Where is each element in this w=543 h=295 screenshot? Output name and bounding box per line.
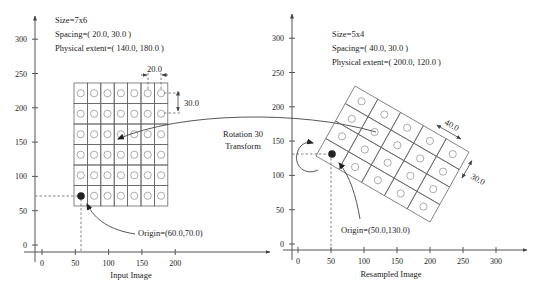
right-x-tick-label: 100 [358,257,370,266]
resampled-pixel-center [426,137,433,144]
right-extent-label: Physical extent=( 200.0, 120.0 ) [332,57,441,67]
resampling-diagram: 050100150200 050100150200250300 Size=7x6… [0,0,543,295]
right-y-tick-label: 100 [272,171,284,180]
resampled-pixel-center [358,98,365,105]
right-size-label: Size=5x4 [332,29,365,39]
resampled-pixel-center [351,163,358,170]
left-y-tick-label: 300 [15,35,27,44]
input-pixel-cell [87,124,100,145]
input-pixel-center [144,192,151,199]
resampled-pixel-cell [381,130,414,161]
input-pixel-cell [128,145,141,166]
left-spacing-x-value: 20.0 [147,64,162,74]
right-y-tick-label: 50 [276,206,284,215]
left-x-tick-label: 50 [71,259,79,268]
transform-label-line2: Transform [225,141,261,151]
resampled-pixel-center [361,146,368,153]
input-pixel-cell [74,124,87,145]
input-pixel-cell [74,104,87,125]
input-pixel-cell [154,104,167,125]
input-pixel-center [131,172,138,179]
input-pixel-center [77,110,84,117]
input-pixel-cell [128,165,141,186]
resampled-pixel-cell [436,139,469,170]
input-pixel-center [117,110,124,117]
resampled-pixel-center [430,186,437,193]
input-pixel-center [117,172,124,179]
input-pixel-center [117,151,124,158]
left-y-tick-label: 250 [15,70,27,79]
input-pixel-center [77,172,84,179]
resampled-pixel-cell [417,174,450,205]
left-size-label: Size=7x6 [55,15,87,25]
input-pixel-center [158,131,165,138]
left-extent-label: Physical extent=( 140.0, 180.0 ) [55,43,164,53]
resampled-pixel-center [420,203,427,210]
right-spacing-label: Spacing=( 40.0, 30.0 ) [332,43,408,53]
input-pixel-center [144,131,151,138]
input-pixel-cell [114,186,127,207]
input-pixel-center [104,110,111,117]
right-spacing-y-value: 30.0 [469,171,487,187]
left-x-tick-label: 150 [136,259,148,268]
resampled-pixel-cell [368,99,401,130]
input-pixel-center [91,110,98,117]
left-y-tick-label: 150 [15,138,27,147]
left-spacing-y-value: 30.0 [184,98,199,108]
input-pixel-cell [154,165,167,186]
resampled-pixel-cell [404,143,437,174]
right-origin-label: Origin=(50.0,130.0) [341,225,410,235]
input-pixel-cell [154,186,167,207]
left-y-tick-label: 200 [15,104,27,113]
left-y-tick-label: 50 [19,207,27,216]
resampled-pixel-center [397,190,404,197]
input-pixel-center [144,172,151,179]
resampled-pixel-center [394,142,401,149]
input-pixel-center [77,90,84,97]
input-pixel-center [158,110,165,117]
right-x-tick-label: 150 [391,257,403,266]
right-y-tick-label: 0 [280,240,284,249]
input-pixel-cell [154,145,167,166]
input-pixel-center [104,90,111,97]
resampled-pixel-center [417,155,424,162]
resampled-pixel-center [338,133,345,140]
input-pixel-cell [114,165,127,186]
resampled-pixel-center [439,168,446,175]
resampled-pixel-cell [339,152,372,183]
left-x-tick-label: 0 [40,259,44,268]
resampled-pixel-center [384,159,391,166]
input-pixel-cell [101,83,114,104]
input-pixel-center [158,192,165,199]
resampled-pixel-cell [394,161,427,192]
input-pixel-center [158,172,165,179]
input-pixel-center [117,90,124,97]
right-x-tick-label: 200 [424,257,436,266]
input-pixel-cell [74,145,87,166]
resampled-pixel-center [404,124,411,131]
right-spacing-x-value: 40.0 [443,117,461,133]
input-pixel-cell [101,145,114,166]
right-spacing-y-dimension: 30.0 [462,164,487,187]
input-pixel-cell [141,124,154,145]
transform-label-line1: Rotation 30 [223,129,263,139]
left-origin-point [77,192,85,200]
resampled-pixel-cell [391,112,424,143]
resampled-image-panel: 050100150200250300 050100150200250300 Si… [272,14,527,279]
input-pixel-center [104,151,111,158]
right-spacing-x-dimension: 40.0 [440,117,461,139]
input-pixel-center [77,151,84,158]
input-pixel-center [91,90,98,97]
input-pixel-center [131,90,138,97]
input-pixel-cell [101,165,114,186]
input-pixel-cell [141,145,154,166]
right-y-tick-label: 300 [272,34,284,43]
right-caption: Resampled Image [360,269,421,279]
input-pixel-cell [114,104,127,125]
right-y-tick-label: 200 [272,103,284,112]
left-spacing-label: Spacing=( 20.0, 30.0 ) [55,29,131,39]
input-pixel-center [104,192,111,199]
resampled-pixel-center [381,111,388,118]
input-pixel-center [144,110,151,117]
input-pixel-cell [114,124,127,145]
